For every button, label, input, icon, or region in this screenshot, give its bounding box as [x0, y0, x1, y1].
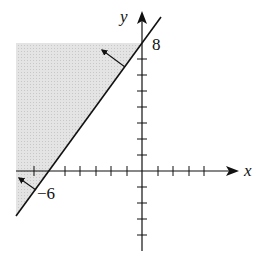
inequality-graph: y x 8 −6 — [0, 0, 267, 261]
x-axis-label: x — [243, 161, 252, 180]
x-intercept-label: −6 — [37, 184, 55, 203]
y-axis-label: y — [118, 7, 128, 26]
y-intercept-label: 8 — [152, 35, 161, 54]
